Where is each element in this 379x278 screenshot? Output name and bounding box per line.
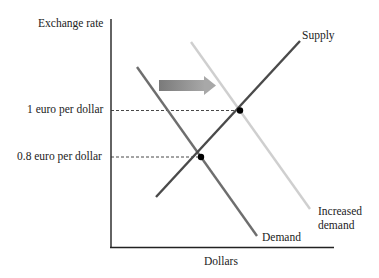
price-label-high: 1 euro per dollar bbox=[27, 103, 103, 116]
equilibrium-point-low bbox=[198, 154, 204, 160]
equilibrium-point-high bbox=[237, 107, 243, 113]
increased-demand-label-line1: Increased bbox=[318, 205, 362, 218]
x-axis-label: Dollars bbox=[204, 255, 238, 268]
increased-demand-curve bbox=[191, 42, 310, 209]
shift-arrow-icon bbox=[159, 76, 216, 95]
price-label-low: 0.8 euro per dollar bbox=[17, 150, 102, 163]
supply-curve bbox=[156, 41, 300, 197]
increased-demand-label-line2: demand bbox=[318, 219, 354, 232]
supply-label: Supply bbox=[302, 29, 335, 42]
y-axis-label: Exchange rate bbox=[38, 17, 103, 30]
demand-label: Demand bbox=[262, 231, 301, 244]
